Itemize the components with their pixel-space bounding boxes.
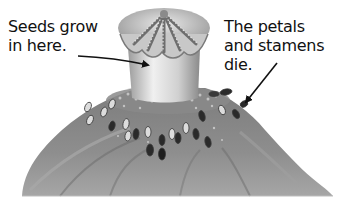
label-seeds-grow: Seeds grow in here. [8, 17, 98, 55]
label-petals-line-1: The petals [224, 17, 324, 36]
label-petals-line-2: and stamens [224, 36, 324, 55]
label-seeds-line-2: in here. [8, 36, 98, 55]
label-petals-die: The petals and stamens die. [224, 17, 324, 74]
poppy-diagram: Seeds grow in here. The petals and stame… [0, 0, 340, 207]
seed-pod [118, 8, 210, 103]
label-petals-line-3: die. [224, 55, 324, 74]
label-seeds-line-1: Seeds grow [8, 17, 98, 36]
